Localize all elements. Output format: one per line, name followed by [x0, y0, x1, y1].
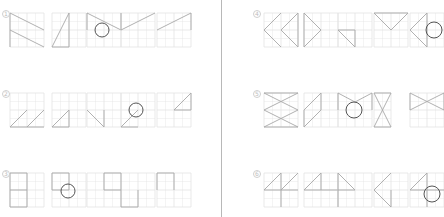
grid-figure-icon [338, 173, 372, 207]
row-number-label: 1 [2, 10, 10, 18]
grid-figure-icon [157, 93, 191, 127]
grid-figure-icon [10, 93, 44, 127]
figure-panel [121, 13, 155, 47]
figure-panel [264, 173, 298, 207]
figure-panel [410, 173, 444, 207]
grid-figure-icon [121, 13, 155, 47]
figure-panel [304, 173, 338, 207]
figure-panel [264, 13, 298, 47]
grid-figure-icon [87, 13, 121, 47]
grid-figure-icon [410, 13, 444, 47]
figure-panel [157, 13, 191, 47]
figure-panel [338, 93, 372, 127]
figure-panel [374, 93, 391, 127]
row-number-label: 3 [2, 170, 10, 178]
figure-panel [87, 93, 121, 127]
row-number-label: 2 [2, 90, 10, 98]
answer-circle-icon [424, 186, 440, 202]
figure-panel [410, 93, 444, 127]
grid-figure-icon [52, 13, 86, 47]
grid-figure-icon [264, 13, 298, 47]
figure-panel [374, 13, 408, 47]
grid-figure-icon [52, 173, 86, 207]
grid-figure-icon [10, 173, 44, 207]
grid-figure-icon [87, 93, 121, 127]
grid-figure-icon [304, 173, 338, 207]
grid-figure-icon [10, 13, 44, 47]
center-divider [221, 0, 222, 217]
figure-panel [10, 93, 44, 127]
figure-panel [374, 173, 408, 207]
grid-figure-icon [121, 93, 155, 127]
figure-panel [338, 13, 372, 47]
row-number-label: 6 [253, 170, 261, 178]
grid-figure-icon [87, 173, 155, 207]
grid-figure-icon [264, 173, 298, 207]
answer-circle-icon [61, 184, 75, 198]
grid-figure-icon [157, 173, 191, 207]
grid-figure-icon [410, 93, 444, 127]
figure-panel [304, 13, 338, 47]
figure-panel [121, 93, 155, 127]
grid-figure-icon [374, 173, 408, 207]
row-number-label: 5 [253, 90, 261, 98]
figure-panel [87, 13, 121, 47]
figure-panel [52, 173, 86, 207]
figure-panel [157, 173, 191, 207]
figure-panel [338, 173, 372, 207]
grid-figure-icon [410, 173, 444, 207]
row-number-label: 4 [253, 10, 261, 18]
figure-panel [87, 173, 155, 207]
figure-panel [157, 93, 191, 127]
figure-panel [10, 173, 44, 207]
figure-panel [304, 93, 338, 127]
grid-figure-icon [338, 13, 372, 47]
grid-figure-icon [157, 13, 191, 47]
grid-figure-icon [264, 93, 298, 127]
grid-figure-icon [374, 13, 408, 47]
figure-panel [264, 93, 298, 127]
grid-figure-icon [304, 13, 338, 47]
grid-figure-icon [374, 93, 391, 127]
grid-figure-icon [52, 93, 86, 127]
figure-panel [52, 93, 86, 127]
figure-panel [410, 13, 444, 47]
figure-panel [10, 13, 44, 47]
grid-figure-icon [338, 93, 372, 127]
figure-panel [52, 13, 86, 47]
grid-figure-icon [304, 93, 338, 127]
